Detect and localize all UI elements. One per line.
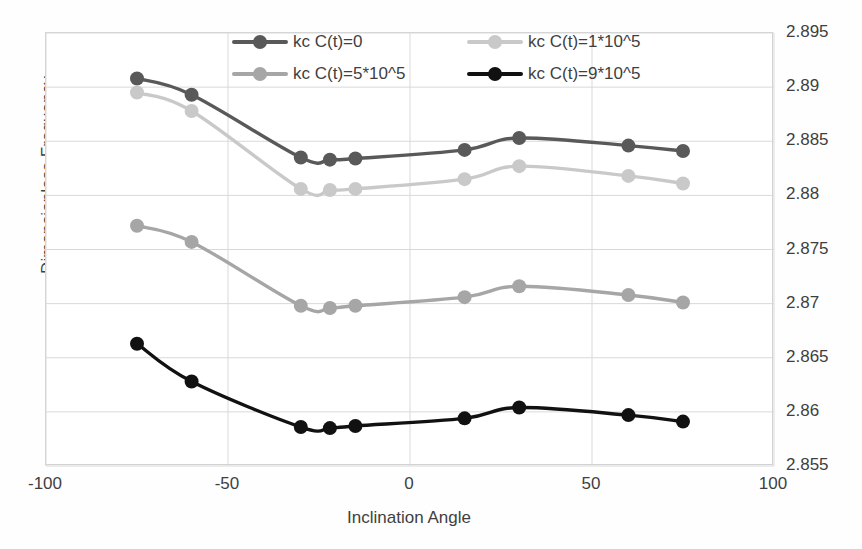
y-axis-tick-label: 2.875 [786,239,860,259]
y-axis-tick-label: 2.895 [786,22,860,42]
data-point-marker [512,159,526,173]
data-point-marker [676,144,690,158]
data-point-marker [323,301,337,315]
data-point-marker [294,182,308,196]
chart-figure: Dimensionless Frequency 2.8552.862.8652.… [0,0,862,549]
series-1 [130,86,690,197]
x-axis-tick-label: 0 [364,474,454,494]
data-point-marker [130,219,144,233]
data-point-marker [323,421,337,435]
data-point-marker [348,182,362,196]
series-line [137,226,683,312]
series-lines [46,33,774,466]
data-point-marker [130,86,144,100]
x-axis-tick-label: -50 [182,474,272,494]
legend-label: kc C(t)=5*10^5 [293,64,405,84]
legend-item-0[interactable]: kc C(t)=0 [232,32,467,52]
chart-legend: kc C(t)=0 kc C(t)=1*10^5 kc C(t)=5*10^5 … [232,26,652,90]
y-axis-tick-label: 2.87 [786,293,860,313]
data-point-marker [323,153,337,167]
legend-item-2[interactable]: kc C(t)=5*10^5 [232,64,467,84]
data-point-marker [676,296,690,310]
legend-label: kc C(t)=1*10^5 [528,32,640,52]
data-point-marker [323,183,337,197]
data-point-marker [185,235,199,249]
x-axis-tick-label: -100 [0,474,90,494]
data-point-marker [458,290,472,304]
data-point-marker [512,279,526,293]
x-axis-title: Inclination Angle [45,508,773,528]
data-point-marker [621,408,635,422]
legend-label: kc C(t)=0 [293,32,362,52]
data-point-marker [348,152,362,166]
y-axis-tick-label: 2.88 [786,184,860,204]
y-axis-tick-label: 2.855 [786,455,860,475]
data-point-marker [130,337,144,351]
legend-dot-icon [488,67,502,81]
legend-line-marker-icon [232,34,288,50]
y-axis-tick-label: 2.86 [786,401,860,421]
series-line [137,78,683,163]
data-point-marker [348,419,362,433]
series-2 [130,219,690,315]
legend-label: kc C(t)=9*10^5 [528,64,640,84]
data-point-marker [185,104,199,118]
data-point-marker [130,71,144,85]
legend-line-marker-icon [467,34,523,50]
data-point-marker [294,150,308,164]
data-point-marker [512,401,526,415]
data-point-marker [294,420,308,434]
data-point-marker [294,299,308,313]
data-point-marker [512,131,526,145]
data-point-marker [621,288,635,302]
data-point-marker [185,375,199,389]
data-point-marker [621,139,635,153]
x-axis-tick-label: 100 [728,474,818,494]
legend-item-1[interactable]: kc C(t)=1*10^5 [467,32,652,52]
x-axis-tick-label: 50 [546,474,636,494]
legend-dot-icon [253,67,267,81]
legend-item-3[interactable]: kc C(t)=9*10^5 [467,64,652,84]
data-point-marker [676,415,690,429]
y-axis-tick-label: 2.89 [786,76,860,96]
plot-area [45,32,773,465]
series-3 [130,337,690,435]
y-axis-tick-label: 2.885 [786,130,860,150]
legend-dot-icon [488,35,502,49]
data-point-marker [458,143,472,157]
data-point-marker [458,172,472,186]
data-point-marker [458,411,472,425]
legend-dot-icon [253,35,267,49]
data-point-marker [621,169,635,183]
series-line [137,344,683,431]
y-axis-tick-label: 2.865 [786,347,860,367]
legend-line-marker-icon [232,66,288,82]
data-point-marker [348,299,362,313]
data-point-marker [185,88,199,102]
data-point-marker [676,176,690,190]
legend-line-marker-icon [467,66,523,82]
